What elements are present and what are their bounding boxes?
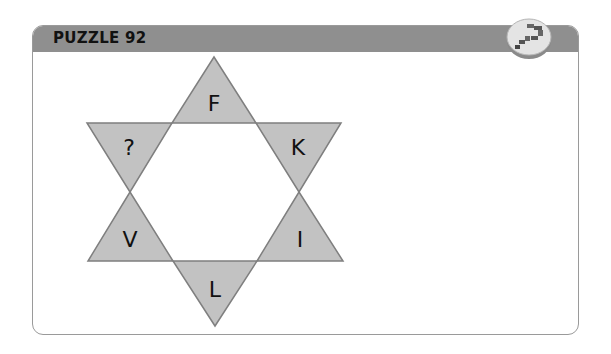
letter-upper-left: ?: [123, 135, 135, 160]
letter-lower-left: V: [122, 227, 137, 252]
letter-bottom: L: [209, 277, 222, 302]
star-puzzle: F ? K V I L: [0, 0, 611, 354]
letter-upper-right: K: [291, 135, 306, 160]
letter-top: F: [208, 91, 221, 116]
letter-lower-right: I: [297, 227, 304, 252]
